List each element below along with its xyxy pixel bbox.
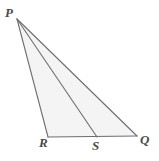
triangle-diagram-svg [0,0,159,161]
vertex-label-s: S [92,139,99,152]
geometry-figure: P R S Q [0,0,159,161]
vertex-label-r: R [39,136,48,149]
vertex-label-q: Q [140,133,149,146]
vertex-label-p: P [5,6,13,19]
